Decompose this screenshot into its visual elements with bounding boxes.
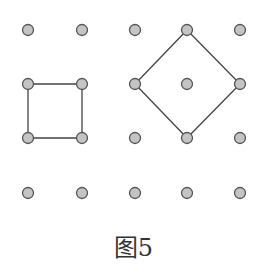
grid-dot xyxy=(182,79,193,90)
figure-caption: 图5 xyxy=(0,228,267,263)
grid-dot xyxy=(23,133,34,144)
grid-dot xyxy=(77,25,88,36)
square-shape xyxy=(28,84,82,138)
grid-dot xyxy=(182,25,193,36)
grid-dot xyxy=(235,25,246,36)
grid-dot xyxy=(182,188,193,199)
grid-dot xyxy=(130,79,141,90)
grid-dot xyxy=(235,79,246,90)
grid-dot xyxy=(23,188,34,199)
grid-dot xyxy=(182,133,193,144)
grid-dot xyxy=(130,188,141,199)
grid-dot xyxy=(77,133,88,144)
grid-dot xyxy=(77,79,88,90)
grid-dot xyxy=(235,133,246,144)
grid-dot xyxy=(235,188,246,199)
grid-dot xyxy=(130,133,141,144)
grid-dot xyxy=(77,188,88,199)
grid-dot xyxy=(23,25,34,36)
grid-dot xyxy=(23,79,34,90)
grid-dot xyxy=(130,25,141,36)
